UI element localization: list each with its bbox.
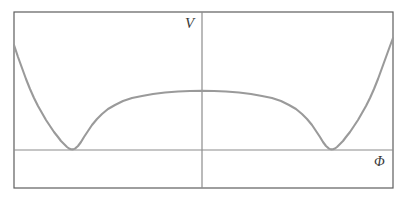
plot-frame-border bbox=[14, 12, 393, 188]
x-axis-label: Φ bbox=[374, 155, 385, 169]
y-axis-label: V bbox=[185, 16, 194, 31]
potential-plot-figure: V Φ bbox=[0, 0, 404, 200]
plot-canvas bbox=[0, 0, 404, 200]
